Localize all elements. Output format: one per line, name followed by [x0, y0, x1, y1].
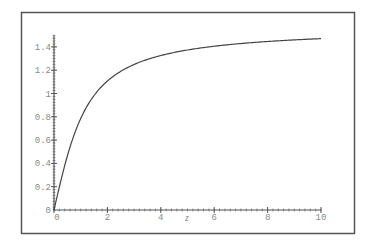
y-tick-label: 1 [46, 90, 51, 100]
y-tick-label: 0.8 [35, 113, 51, 123]
x-tick-label: 0 [54, 213, 59, 223]
y-origin-label: 0 [46, 206, 51, 216]
x-axis-label: z [184, 212, 189, 223]
data-curve [54, 39, 321, 210]
ticks: 024681000.20.40.60.811.21.4 [35, 35, 327, 223]
x-tick-label: 4 [158, 213, 163, 223]
x-tick-label: 6 [211, 213, 216, 223]
x-tick-label: 2 [105, 213, 110, 223]
x-tick-label: 8 [265, 213, 270, 223]
y-tick-label: 1.2 [35, 66, 51, 76]
chart-frame [22, 13, 355, 234]
axes [54, 35, 321, 210]
y-tick-label: 0.4 [35, 159, 51, 169]
y-tick-label: 1.4 [35, 43, 51, 53]
y-tick-label: 0.2 [35, 183, 51, 193]
x-tick-label: 10 [316, 213, 327, 223]
y-tick-label: 0.6 [35, 136, 51, 146]
chart: 024681000.20.40.60.811.21.4 z [0, 0, 370, 249]
